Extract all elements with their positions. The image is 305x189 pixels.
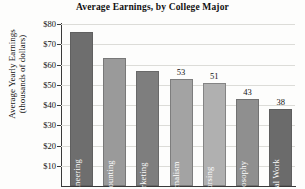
chart-title: Average Earnings, by College Major: [0, 2, 305, 12]
gridline: [61, 44, 295, 45]
bar[interactable]: Engineering: [70, 32, 93, 186]
plot-area: $80$70$60$50$40$30$20$10 EngineeringAcco…: [61, 24, 295, 186]
y-tick-label: $60: [43, 60, 56, 70]
y-tick-mark: [57, 24, 61, 25]
bar-category-label: Social Work: [271, 159, 281, 189]
y-tick-label: $70: [43, 39, 56, 49]
bar[interactable]: Social Work: [269, 109, 292, 186]
y-tick-label: $50: [43, 80, 56, 90]
bar[interactable]: Marketing: [136, 71, 159, 186]
y-tick-label: $10: [43, 161, 56, 171]
bar-category-label: Journalism: [171, 161, 181, 189]
bar-value-label: 38: [276, 97, 285, 107]
y-tick-mark: [57, 166, 61, 167]
bar-value-label: 53: [177, 67, 186, 77]
bar[interactable]: Journalism: [170, 79, 193, 186]
y-tick-mark: [57, 125, 61, 126]
y-axis-title: Average Yearly Earnings (thousands of do…: [0, 0, 36, 149]
bar-category-label: Engineering: [72, 159, 82, 189]
bar-value-label: 43: [243, 87, 252, 97]
bar-value-label: 51: [210, 71, 219, 81]
bar-category-label: Marketing: [138, 162, 148, 189]
bar-chart: Average Earnings, by College Major Avera…: [0, 0, 305, 189]
y-axis-title-line-2: (thousands of dollars): [18, 35, 28, 114]
y-tick-mark: [57, 146, 61, 147]
gridline: [61, 24, 295, 25]
y-tick-label: $20: [43, 141, 56, 151]
bar-category-label: Accounting: [105, 160, 115, 189]
y-tick-mark: [57, 105, 61, 106]
y-tick-mark: [57, 85, 61, 86]
bar[interactable]: Philosophy: [236, 99, 259, 186]
bar[interactable]: Accounting: [103, 58, 126, 186]
y-tick-label: $40: [43, 100, 56, 110]
y-tick-label: $30: [43, 120, 56, 130]
bar[interactable]: Nursing: [203, 83, 226, 186]
y-tick-mark: [57, 44, 61, 45]
y-tick-label: $80: [43, 19, 56, 29]
gridline: [61, 65, 295, 66]
bar-category-label: Nursing: [204, 167, 214, 189]
y-tick-mark: [57, 65, 61, 66]
bar-category-label: Philosophy: [238, 161, 248, 189]
